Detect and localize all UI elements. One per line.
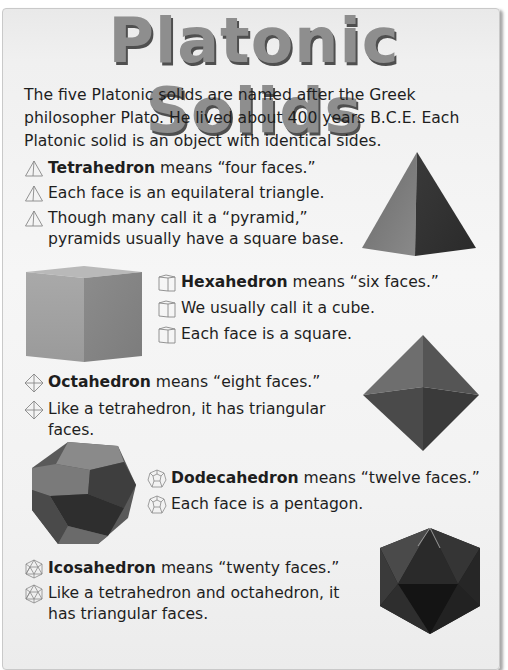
term-octahedron: Octahedron [48,373,151,391]
icosahedron-line-1: Icosahedron means “twenty faces.” [24,558,364,579]
octahedron-icon [24,400,44,420]
icosahedron-icon [24,584,44,604]
dodecahedron-image [28,440,138,550]
tetrahedron-line-3: Though many call it a “pyramid,” pyramid… [24,208,344,250]
dodecahedron-icon [147,495,167,515]
intro-paragraph: The five Platonic solids are named after… [24,84,494,153]
term-hexahedron: Hexahedron [181,273,288,291]
icosahedron-image [378,526,484,636]
octahedron-line-2: Like a tetrahedron, it has triangular fa… [24,399,364,441]
term-dodecahedron: Dodecahedron [171,469,299,487]
octahedron-line-1: Octahedron means “eight faces.” [24,372,364,393]
dodecahedron-icon [147,469,167,489]
octahedron-image [361,333,481,453]
tetrahedron-icon [24,209,44,229]
cube-image [24,264,144,364]
icosahedron-line-2: Like a tetrahedron and octahedron, it ha… [24,583,344,625]
tetrahedron-icon [24,159,44,179]
dodecahedron-line-2: Each face is a pentagon. [147,494,497,515]
dodecahedron-line-1: Dodecahedron means “twelve faces.” [147,468,497,489]
hexahedron-line-1: Hexahedron means “six faces.” [157,272,497,293]
term-tetrahedron: Tetrahedron [48,159,155,177]
icosahedron-icon [24,559,44,579]
tetrahedron-line-1: Tetrahedron means “four faces.” [24,158,344,179]
tetrahedron-line-2: Each face is an equilateral triangle. [24,183,344,204]
term-icosahedron: Icosahedron [48,559,156,577]
octahedron-icon [24,373,44,393]
cube-icon [157,299,177,319]
tetrahedron-image [360,148,480,260]
cube-icon [157,273,177,293]
hexahedron-line-2: We usually call it a cube. [157,298,497,319]
tetrahedron-icon [24,184,44,204]
cube-icon [157,325,177,345]
